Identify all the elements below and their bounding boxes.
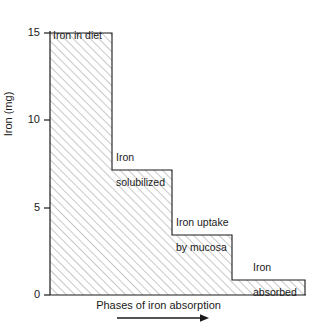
bar-label-iron-absorbed: Iron absorbed [253, 248, 297, 298]
bar-label-iron-uptake-line1: Iron uptake [176, 216, 229, 228]
bar-label-iron-absorbed-line1: Iron [253, 261, 271, 273]
y-axis-title: Iron (mg) [2, 74, 14, 154]
bar-label-iron-solubilized: Iron solubilized [116, 138, 165, 188]
bar-label-iron-in-diet-line1: Iron in diet [53, 29, 102, 41]
bar-label-iron-uptake-line2: by mucosa [176, 241, 227, 253]
y-tick-label-10: 10 [14, 114, 40, 125]
bar-label-iron-solubilized-line1: Iron [116, 151, 134, 163]
y-tick-label-15: 15 [14, 27, 40, 38]
iron-absorption-step-chart: 15 10 5 0 Iron (mg) Iron in diet Iron so… [0, 0, 317, 328]
bar-label-iron-uptake-by-mucosa: Iron uptake by mucosa [176, 203, 229, 253]
y-tick-label-5: 5 [14, 202, 40, 213]
x-axis-title: Phases of iron absorption [0, 299, 317, 311]
bar-label-iron-in-diet: Iron in diet [53, 16, 102, 41]
direction-arrow-icon [117, 314, 209, 322]
bar-label-iron-absorbed-line2: absorbed [253, 286, 297, 298]
bar-label-iron-solubilized-line2: solubilized [116, 176, 165, 188]
